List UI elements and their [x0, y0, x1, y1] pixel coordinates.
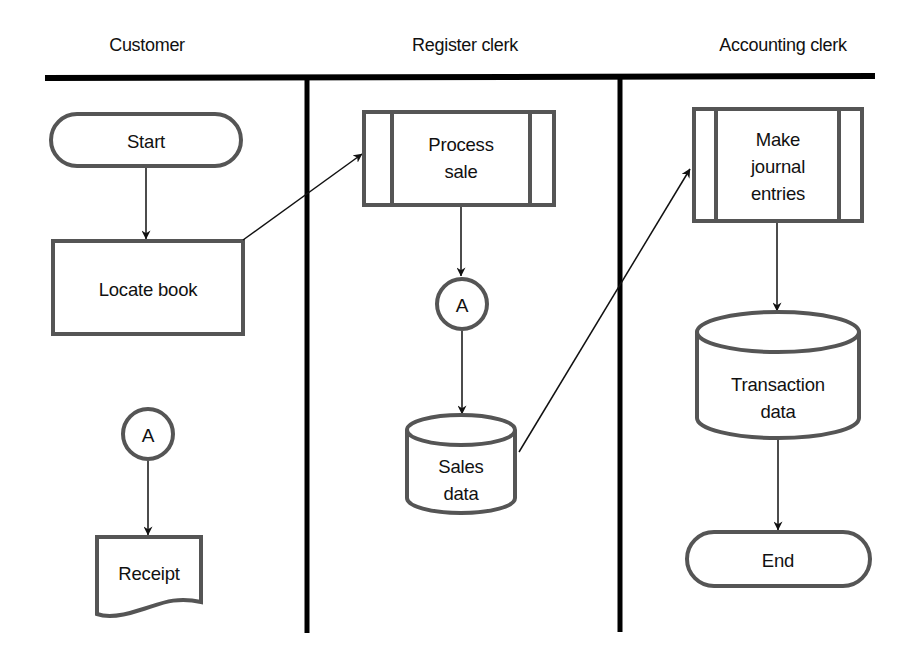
connector-a-register-label: A [456, 292, 468, 319]
arrow-sales-data-to-journal [519, 169, 690, 452]
receipt-label: Receipt [118, 560, 179, 587]
make-journal-entries-label: Make journal entries [751, 126, 805, 207]
lane-title-register-clerk: Register clerk [412, 35, 518, 56]
lane-title-accounting-clerk: Accounting clerk [719, 35, 846, 56]
end-label: End [762, 547, 794, 574]
lane-title-customer: Customer [109, 35, 185, 56]
connector-a-customer-label: A [142, 422, 154, 449]
lane-header-rule [45, 76, 875, 78]
start-label: Start [127, 128, 165, 155]
locate-book-label: Locate book [99, 276, 198, 303]
arrow-locate-to-process-sale [243, 154, 362, 240]
sales-data-label: Sales data [438, 453, 483, 507]
transaction-data-label: Transaction data [731, 371, 825, 425]
process-sale-label: Process sale [428, 131, 493, 185]
